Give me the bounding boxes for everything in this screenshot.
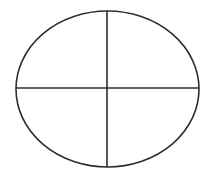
background (0, 0, 211, 173)
diagram-canvas (0, 0, 211, 173)
